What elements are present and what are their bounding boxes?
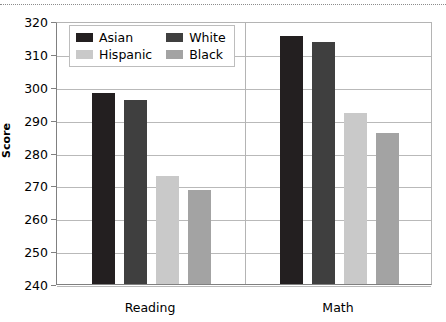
bar-chart-figure: Score 320310300290280270260250240 AsianW… [0, 0, 446, 322]
bar [280, 36, 303, 284]
legend-entry: Black [166, 47, 225, 62]
bar [344, 113, 367, 284]
legend-label: Black [189, 47, 223, 62]
y-axis-tick-label: 320 [24, 15, 48, 30]
y-axis-tick-label: 280 [24, 146, 48, 161]
legend-color-swatch [76, 33, 93, 42]
bar [376, 133, 399, 284]
bar [188, 190, 211, 284]
top-dotted-divider [0, 4, 446, 5]
y-axis-tick-label: 290 [24, 113, 48, 128]
bar [156, 176, 179, 284]
y-axis-tick-label: 300 [24, 80, 48, 95]
legend-color-swatch [166, 33, 183, 42]
y-axis-title: Score [0, 111, 13, 171]
y-axis-tick-label: 250 [24, 245, 48, 260]
x-axis-category-label: Math [322, 300, 353, 315]
legend-label: White [189, 30, 225, 45]
legend-entry: Asian [76, 30, 152, 45]
legend-entry: Hispanic [76, 47, 152, 62]
x-axis-labels: ReadingMath [56, 286, 432, 320]
y-axis-tick-label: 260 [24, 212, 48, 227]
y-axis-tick-label: 240 [24, 278, 48, 293]
y-axis-tick-label: 310 [24, 47, 48, 62]
legend-color-swatch [76, 50, 93, 59]
bar [124, 100, 147, 284]
legend-color-swatch [166, 50, 183, 59]
legend-label: Asian [99, 30, 133, 45]
legend-label: Hispanic [99, 47, 152, 62]
bar [312, 42, 335, 284]
plot-area: AsianWhiteHispanicBlack [56, 22, 432, 285]
bar [92, 93, 115, 284]
legend-entry: White [166, 30, 225, 45]
x-axis-category-label: Reading [125, 300, 176, 315]
y-axis-tick-label: 270 [24, 179, 48, 194]
legend: AsianWhiteHispanicBlack [69, 25, 235, 67]
